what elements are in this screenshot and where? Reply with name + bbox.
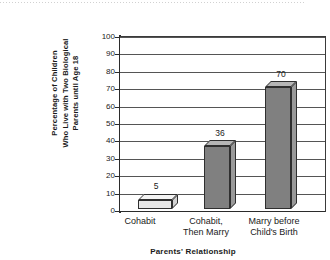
scan-artifact-line [0, 2, 306, 3]
gridline-0: 0 [120, 211, 325, 212]
tickmark-10 [115, 194, 119, 195]
bar-value-marry-before-birth: 70 [261, 70, 301, 79]
y-tick-label-50: 50 [89, 120, 115, 128]
gridline-90: 90 [120, 54, 325, 55]
tickmark-90 [115, 54, 119, 55]
bar-cohabit-front [138, 200, 172, 209]
tickmark-0 [115, 211, 119, 212]
y-tick-label-40: 40 [89, 137, 115, 145]
bar-value-cohabit-then-marry: 36 [200, 129, 240, 138]
tickmark-30 [115, 159, 119, 160]
tickmark-100 [115, 37, 119, 38]
y-tick-label-100: 100 [89, 33, 115, 41]
tickmark-50 [115, 124, 119, 125]
tickmark-20 [115, 176, 119, 177]
y-tick-label-0: 0 [89, 207, 115, 215]
x-category-marry-before-birth-line-2: Child's Birth [228, 227, 320, 238]
gridline-100: 100 [120, 37, 325, 38]
y-tick-label-10: 10 [89, 190, 115, 198]
y-axis-title: Percentage of Children Who Live with Two… [46, 4, 86, 182]
tickmark-70 [115, 89, 119, 90]
y-tick-label-70: 70 [89, 85, 115, 93]
y-tick-label-30: 30 [89, 155, 115, 163]
bar-marry-before-birth-side [291, 81, 297, 209]
bar-cohabit-then-marry-front [204, 146, 230, 209]
bar-cohabit-then-marry-side [230, 140, 236, 209]
bar-value-cohabit: 5 [136, 182, 176, 191]
bar-cohabit[interactable]: 5 [138, 200, 172, 209]
plot-area: 100 90 80 70 60 50 40 30 [120, 36, 326, 212]
y-tick-label-90: 90 [89, 50, 115, 58]
tickmark-40 [115, 141, 119, 142]
y-tick-label-60: 60 [89, 103, 115, 111]
y-axis-title-line-1: Percentage of Children [50, 50, 61, 135]
y-axis-title-line-3: Parents until Age 18 [71, 56, 82, 131]
tickmark-60 [115, 107, 119, 108]
bar-marry-before-birth-front [265, 87, 291, 209]
bar-chart: Percentage of Children Who Live with Two… [40, 16, 330, 260]
tickmark-80 [115, 72, 119, 73]
x-axis-title: Parents' Relationship [40, 247, 330, 256]
y-axis-title-line-2: Who Live with Two Biological [61, 39, 72, 148]
y-tick-label-80: 80 [89, 68, 115, 76]
x-category-marry-before-birth-line-1: Marry before [228, 216, 320, 227]
bar-cohabit-then-marry[interactable]: 36 [204, 146, 230, 209]
x-category-label-marry-before-birth: Marry before Child's Birth [228, 216, 320, 237]
y-tick-label-20: 20 [89, 172, 115, 180]
bar-marry-before-birth[interactable]: 70 [265, 87, 291, 209]
